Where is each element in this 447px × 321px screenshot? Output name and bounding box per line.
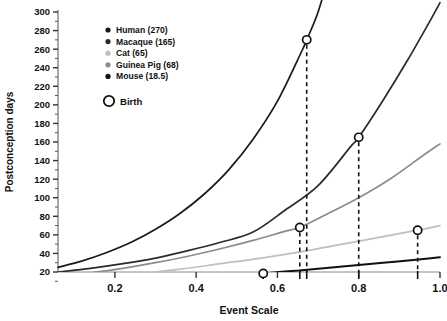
birth-marker-guinea-pig: [296, 223, 304, 231]
y-axis-tick-label: 260: [34, 44, 50, 55]
legend-dot-cat: [105, 51, 110, 56]
legend-label: Cat (65): [116, 48, 148, 58]
x-axis-title: Event Scale: [220, 304, 279, 316]
y-axis-tick-label: 80: [39, 211, 50, 222]
legend: Human (270)Macaque (165)Cat (65)Guinea P…: [104, 25, 179, 107]
y-axis-tick-label: 220: [34, 81, 50, 92]
legend-birth-marker-icon: [104, 96, 114, 106]
x-axis-tick-label: 0.6: [270, 282, 285, 294]
y-axis-tick-label: 20: [39, 266, 50, 277]
legend-label: Macaque (165): [116, 37, 175, 47]
x-axis-tick-label: 0.8: [351, 282, 366, 294]
y-axis-tick-label: 240: [34, 62, 50, 73]
x-axis-tick-label: 1.0: [432, 282, 447, 294]
birth-markers-layer: [259, 36, 422, 278]
y-axis-title: Postconception days: [4, 91, 15, 192]
birth-marker-mouse: [259, 269, 267, 277]
y-axis-tick-label: 200: [34, 99, 50, 110]
chart-canvas: 2040608010012014016018020022024026028030…: [0, 0, 447, 321]
y-axis-tick-label: 180: [34, 118, 50, 129]
x-axis-tick-label: 0.4: [189, 282, 205, 294]
y-axis-tick-label: 140: [34, 155, 50, 166]
y-axis-tick-label: 120: [34, 174, 50, 185]
y-axis-tick-label: 300: [34, 6, 50, 17]
legend-birth-label: Birth: [120, 96, 143, 107]
legend-label: Mouse (18.5): [116, 71, 168, 81]
legend-dot-macaque: [105, 39, 110, 44]
y-axis-tick-label: 160: [34, 136, 50, 147]
legend-dot-mouse: [105, 74, 110, 79]
y-axis-tick-label: 40: [39, 248, 50, 259]
birth-marker-human: [303, 36, 311, 44]
legend-dot-guinea-pig: [105, 62, 110, 67]
birth-marker-macaque: [355, 133, 363, 141]
x-axis-tick-label: 0.2: [107, 282, 122, 294]
birth-drop-lines: [263, 45, 417, 279]
axes-layer: 2040608010012014016018020022024026028030…: [34, 6, 447, 294]
legend-label: Guinea Pig (68): [116, 60, 179, 70]
series-curve-guinea-pig: [58, 144, 440, 278]
y-axis-tick-label: 280: [34, 25, 50, 36]
y-axis-tick-label: 60: [39, 229, 50, 240]
chart-figure: 2040608010012014016018020022024026028030…: [0, 0, 447, 321]
legend-label: Human (270): [116, 25, 168, 35]
legend-dot-human: [105, 27, 110, 32]
series-curve-human: [58, 0, 330, 267]
birth-marker-cat: [414, 226, 422, 234]
y-axis-tick-label: 100: [34, 192, 50, 203]
